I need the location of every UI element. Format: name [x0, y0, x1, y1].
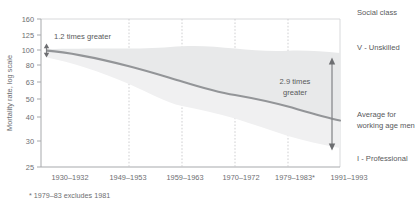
- label-average-line1: Average for: [357, 110, 397, 119]
- y-tick-label: 125: [22, 31, 34, 40]
- y-axis-title: Mortality rate, log scale: [5, 55, 14, 131]
- ratio-end-label-line1: 2.9 times: [280, 77, 311, 86]
- y-axis-tick-labels: 160 125 100 80 63 50 40 30 25: [22, 15, 34, 172]
- y-tick-label: 63: [26, 78, 34, 87]
- y-tick-label: 50: [26, 95, 34, 104]
- y-tick-label: 80: [26, 61, 34, 70]
- y-axis-ticks: [37, 19, 41, 167]
- social-class-heading: Social class: [357, 8, 397, 17]
- y-tick-label: 25: [26, 163, 34, 172]
- label-class-i-professional: I - Professional: [357, 154, 408, 163]
- x-axis-tick-labels: 1930–1932 1949–1953 1959–1963 1970–1972 …: [52, 173, 368, 182]
- x-tick-label: 1991–1993: [331, 173, 368, 182]
- y-tick-label: 30: [26, 137, 34, 146]
- x-tick-label: 1959–1963: [167, 173, 204, 182]
- y-tick-label: 160: [22, 15, 34, 24]
- label-average-line2: working age men: [356, 121, 415, 130]
- chart-canvas: 160 125 100 80 63 50 40 30 25 Mortality …: [0, 0, 420, 211]
- mortality-rate-chart: 160 125 100 80 63 50 40 30 25 Mortality …: [0, 0, 420, 211]
- footnote: * 1979–83 excludes 1981: [29, 191, 110, 200]
- y-tick-label: 100: [22, 46, 34, 55]
- x-tick-label: 1979–1983*: [275, 173, 315, 182]
- ratio-end-label-line2: greater: [283, 88, 308, 97]
- ratio-start-label: 1.2 times greater: [54, 32, 111, 41]
- y-tick-label: 40: [26, 113, 34, 122]
- label-class-v-unskilled: V - Unskilled: [357, 43, 400, 52]
- x-tick-label: 1949–1953: [110, 173, 147, 182]
- x-tick-label: 1970–1972: [223, 173, 260, 182]
- x-tick-label: 1930–1932: [52, 173, 89, 182]
